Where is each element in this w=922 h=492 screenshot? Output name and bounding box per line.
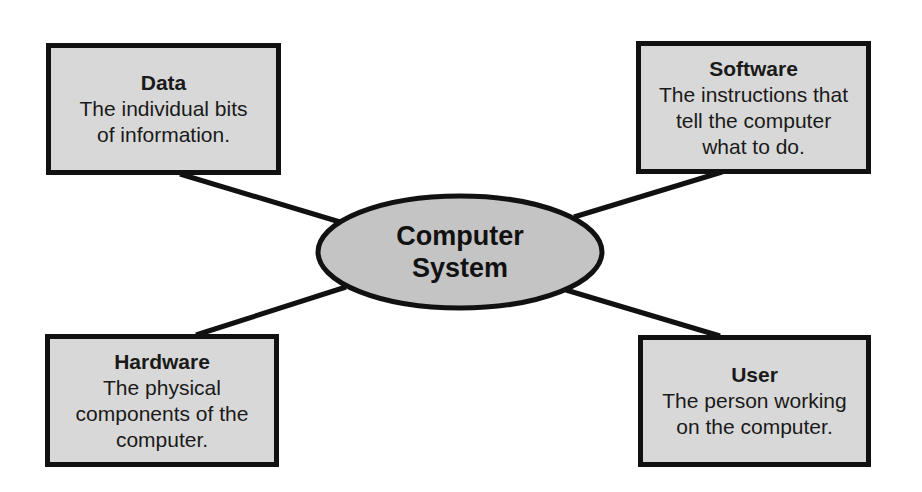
node-software-title: Software bbox=[709, 56, 798, 82]
center-node: Computer System bbox=[316, 194, 604, 310]
node-hardware-title: Hardware bbox=[114, 349, 210, 375]
node-user-title: User bbox=[731, 362, 778, 388]
node-software-description: The instructions that tell the computer … bbox=[659, 82, 848, 160]
node-data-description: The individual bits of information. bbox=[79, 96, 247, 148]
computer-system-diagram: Computer System Data The individual bits… bbox=[0, 0, 922, 492]
center-label: Computer System bbox=[396, 220, 524, 284]
node-hardware: Hardware The physical components of the … bbox=[45, 334, 279, 467]
node-software: Software The instructions that tell the … bbox=[636, 41, 871, 174]
node-data-title: Data bbox=[141, 70, 187, 96]
node-user-description: The person working on the computer. bbox=[662, 388, 846, 440]
node-hardware-description: The physical components of the computer. bbox=[76, 375, 249, 453]
node-data: Data The individual bits of information. bbox=[46, 43, 281, 175]
node-user: User The person working on the computer. bbox=[638, 335, 871, 467]
